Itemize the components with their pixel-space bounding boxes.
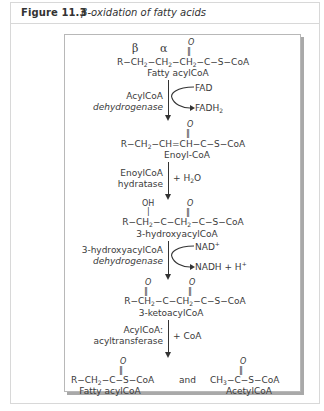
hydroxyacylcoa-name: 3-hydroxyacylCoA	[136, 229, 217, 239]
product2-name: AcetylCoA	[226, 386, 272, 396]
double-bond: ‖	[187, 47, 191, 57]
arrowhead-1	[165, 115, 171, 121]
water-addition: + H2O	[173, 173, 201, 183]
reaction-arrow-4	[168, 320, 169, 353]
fad-label: FAD	[195, 83, 212, 93]
cofactor-curve-3	[168, 243, 198, 273]
enoylcoa-formula: R−CH2−CH=CH−C−S−CoA	[121, 139, 245, 149]
double-bond: ‖	[186, 129, 190, 139]
enzyme1-line1: AcylCoA	[126, 91, 163, 101]
figure-caption: β-oxidation of fatty acids	[81, 7, 206, 18]
product1-formula: R−CH2−C−S−CoA	[71, 375, 154, 385]
enzyme2-line1: EnoylCoA	[120, 168, 163, 178]
reaction-arrow-2	[168, 162, 169, 195]
arrowhead-2	[165, 194, 171, 200]
cofactor-curve-1	[168, 84, 198, 114]
arrowhead-3	[165, 274, 171, 280]
coa-addition: + CoA	[173, 331, 201, 341]
nad-label: NAD+	[195, 242, 220, 252]
fadh2-label: FADH2	[195, 103, 223, 113]
product1-name: Fatty acylCoA	[79, 386, 140, 396]
figure-number: Figure 11.3	[21, 7, 87, 18]
pathway-diagram: β α O ‖ R−CH2−CH2−CH2−C−S−CoA Fatty acyl…	[64, 34, 301, 392]
enzyme2-line2: hydratase	[118, 179, 163, 189]
single-bond: |	[147, 207, 150, 217]
enzyme3-line1: 3-hydroxyacylCoA	[82, 245, 163, 255]
product2-formula: CH3−C−S−CoA	[210, 375, 279, 385]
beta-label: β	[132, 44, 138, 54]
enzyme4-line2: acyltransferase	[93, 336, 163, 346]
hydroxyacylcoa-formula: R−CH2−C−CH2−C−S−CoA	[122, 217, 244, 227]
enoylcoa-name: Enoyl-CoA	[164, 150, 210, 160]
enzyme3-line2: dehydrogenase	[93, 256, 163, 266]
ketoacylcoa-formula: R−CH2−C−CH2−C−S−CoA	[124, 296, 246, 306]
arrowhead-4	[165, 352, 171, 358]
enzyme1-line2: dehydrogenase	[93, 102, 163, 112]
ketoacylcoa-name: 3-ketoacylCoA	[139, 308, 204, 318]
figure-header: Figure 11.3 β-oxidation of fatty acids	[11, 3, 319, 24]
nadh-label: NADH + H+	[195, 262, 247, 272]
and-label: and	[179, 375, 196, 385]
fatty-acylcoa-formula: R−CH2−CH2−CH2−C−S−CoA	[117, 57, 249, 67]
alpha-label: α	[160, 44, 167, 54]
fatty-acylcoa-name: Fatty acylCoA	[147, 68, 208, 78]
enzyme4-line1: AcylCoA:	[123, 325, 163, 335]
